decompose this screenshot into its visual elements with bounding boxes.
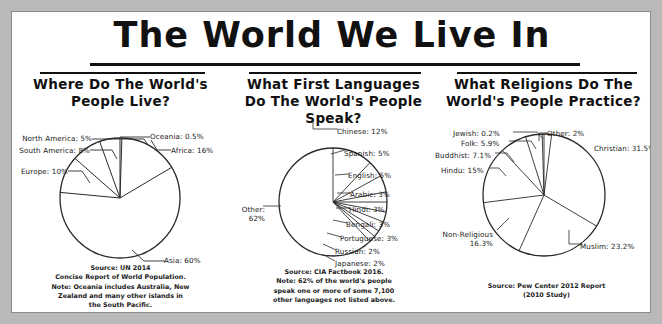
leader-line-europe xyxy=(68,167,94,187)
leader-line-muslim xyxy=(565,230,583,246)
poster-canvas: The World We Live In Where Do The World'… xyxy=(11,11,651,313)
source-line: the South Pacific. xyxy=(28,301,213,310)
leader-line-arabic xyxy=(337,189,352,197)
source-line: other languages not listed above. xyxy=(243,296,425,305)
slice-label-north-america: North America: 5% xyxy=(12,134,92,143)
slice-label-chinese: Chinese: 12% xyxy=(337,127,407,136)
slice-label-non-religious: Non-Religious16.3% xyxy=(433,230,493,248)
leader-line-africa xyxy=(147,140,173,154)
slice-label-buddhist: Buddhist: 7.1% xyxy=(435,151,497,160)
panel-rule xyxy=(40,72,205,74)
page-title: The World We Live In xyxy=(106,18,559,56)
panel-title-religions: What Religions Do The World's People Pra… xyxy=(437,76,650,110)
source-note-population: Source: UN 2014 Concise Report of World … xyxy=(28,264,213,310)
slice-label-english: English: 5% xyxy=(348,171,412,180)
leader-line-buddhist xyxy=(495,150,517,164)
slice-label-europe: Europe: 10% xyxy=(12,167,68,176)
slice-label-christian: Christian: 31.5% xyxy=(594,144,651,153)
leader-line-hindu xyxy=(489,165,509,179)
leader-line-oceania xyxy=(114,132,150,142)
source-note-religions: Source: Pew Center 2012 Report (2010 Stu… xyxy=(459,282,634,301)
leader-line-bengali xyxy=(333,218,348,227)
slice-label-folk: Folk: 5.9% xyxy=(461,139,513,148)
leader-line-japanese xyxy=(322,254,337,264)
slice-label-line: Non-Religious xyxy=(442,230,493,239)
title-underline xyxy=(90,63,580,66)
panel-title-line: World's People Practice? xyxy=(437,93,650,110)
source-line: (2010 Study) xyxy=(459,291,634,300)
slice-label-south-america: South America: 8% xyxy=(12,146,90,155)
slice-label-other-languages: Other:62% xyxy=(223,205,265,223)
source-line: Note: 62% of the world's people xyxy=(243,277,425,286)
panel-title-line: Do The World's People xyxy=(227,93,440,110)
slice-label-arabic: Arabic: 3% xyxy=(350,190,412,199)
slice-label-japanese: Japanese: 2% xyxy=(335,259,407,268)
panel-title-line: What Religions Do The xyxy=(437,76,650,93)
title-block: The World We Live In xyxy=(12,18,651,56)
slice-label-muslim: Muslim: 23.2% xyxy=(580,242,644,251)
source-line: Source: CIA Factbook 2016. xyxy=(243,268,425,277)
leader-line-other-religions xyxy=(535,128,549,142)
leader-line-other-languages xyxy=(263,202,285,214)
source-line: speak one or more of some 7,100 xyxy=(243,287,425,296)
chart-panel-population: Where Do The World's People Live? xyxy=(14,72,227,312)
leader-line-portuguese xyxy=(327,231,342,241)
leader-line-russian xyxy=(323,243,337,253)
slice-label-africa: Africa: 16% xyxy=(171,146,229,155)
leader-line-spanish xyxy=(331,146,346,156)
leader-line-english xyxy=(335,170,350,178)
panel-title-population: Where Do The World's People Live? xyxy=(14,76,227,110)
panel-rule xyxy=(249,72,421,74)
panel-title-line: People Live? xyxy=(14,93,227,110)
source-line: Concise Report of World Population. xyxy=(28,273,213,282)
leader-line-south-america xyxy=(90,146,124,162)
slice-label-line: Other: xyxy=(242,205,265,214)
slice-label-hindu: Hindu: 15% xyxy=(441,166,493,175)
slice-label-russian: Russian: 2% xyxy=(335,247,405,256)
panel-rule xyxy=(457,72,637,74)
slice-label-portuguese: Portuguese: 3% xyxy=(340,234,412,243)
panel-title-line: What First Languages xyxy=(227,76,440,93)
source-line: Zealand and many other islands in xyxy=(28,292,213,301)
slice-label-line: 16.3% xyxy=(470,239,493,248)
slice-label-other-religions: Other: 2% xyxy=(547,129,595,138)
chart-panel-religions: What Religions Do The World's People Pra… xyxy=(437,72,650,312)
slice-label-bengali: Bengali: 3% xyxy=(346,220,410,229)
slice-label-jewish: Jewish: 0.2% xyxy=(453,129,515,138)
source-line: Note: Oceania includes Australia, New xyxy=(28,283,213,292)
source-line: Source: UN 2014 xyxy=(28,264,213,273)
source-line: Source: Pew Center 2012 Report xyxy=(459,282,634,291)
leader-line-chinese xyxy=(311,120,339,134)
panel-title-line: Where Do The World's xyxy=(14,76,227,93)
chart-panel-languages: What First Languages Do The World's Peop… xyxy=(227,72,440,312)
leader-line-hindi xyxy=(336,204,351,212)
leader-line-asia xyxy=(132,248,166,264)
source-note-languages: Source: CIA Factbook 2016. Note: 62% of … xyxy=(243,268,425,305)
leader-line-non-religious xyxy=(489,218,511,236)
slice-label-line: 62% xyxy=(249,214,265,223)
slice-label-hindi: Hindi: 3% xyxy=(349,205,409,214)
slice-label-spanish: Spanish: 5% xyxy=(344,149,410,158)
